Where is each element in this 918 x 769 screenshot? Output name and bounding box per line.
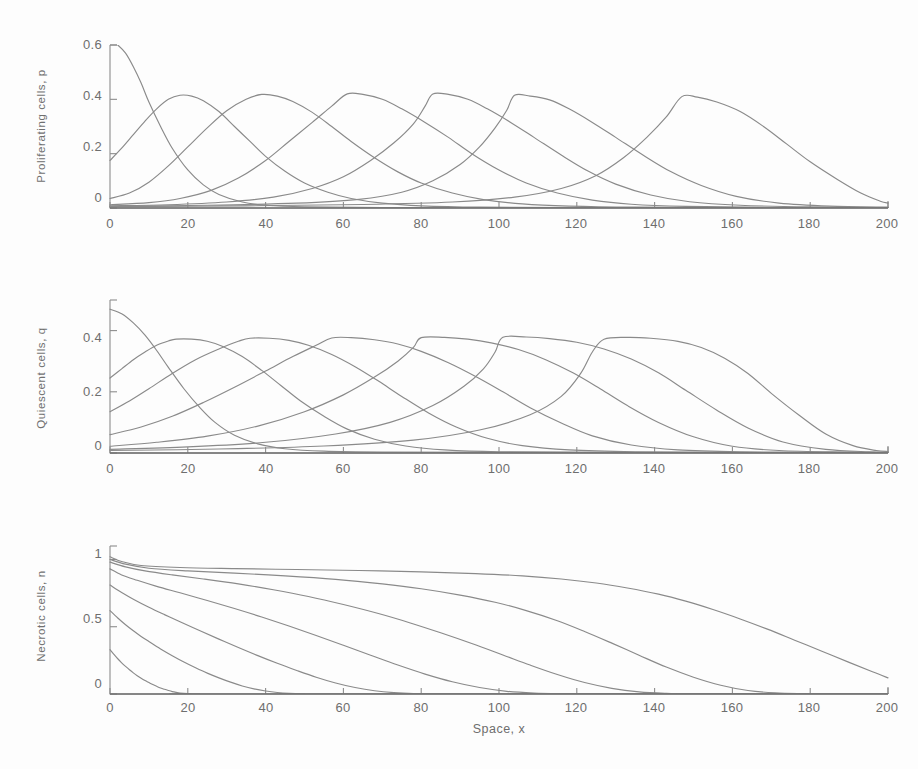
panel-2-ytick-0.2: 0.2	[64, 384, 102, 399]
curve-t2	[110, 95, 888, 208]
panel-1-xtick-100: 100	[482, 216, 516, 231]
curve-t3	[110, 94, 888, 207]
panel-3-y-axis-label: Necrotic cells, n	[35, 541, 47, 691]
panel-3-xtick-20: 20	[171, 700, 205, 715]
curve-t2	[110, 611, 888, 694]
panel-2-xtick-40: 40	[249, 461, 283, 476]
panel-3-xtick-180: 180	[792, 700, 826, 715]
panel-quiescent-cells: Quiescent cells, q 0.4 0.2 0 0 20 40 60 …	[0, 250, 918, 500]
panel-3-ytick-0.5: 0.5	[64, 611, 102, 626]
panel-2-xtick-100: 100	[482, 461, 516, 476]
panel-1-xtick-180: 180	[792, 216, 826, 231]
panel-1-ytick-0.6: 0.6	[64, 37, 102, 52]
curve-t5	[110, 562, 888, 694]
panel-1-xtick-40: 40	[249, 216, 283, 231]
panel-2-xtick-180: 180	[792, 461, 826, 476]
panel-1-plot-area	[110, 45, 888, 208]
panel-3-ytick-0: 0	[64, 676, 102, 691]
curve-t3	[110, 585, 888, 694]
panel-1-ytick-0.4: 0.4	[64, 88, 102, 103]
panel-3-xtick-60: 60	[326, 700, 360, 715]
curve-t3	[110, 338, 888, 453]
panel-1-ytick-0.2: 0.2	[64, 139, 102, 154]
curve-t4	[110, 569, 888, 694]
panel-2-xtick-200: 200	[870, 461, 904, 476]
panel-2-ytick-0: 0	[64, 438, 102, 453]
panel-1-xtick-20: 20	[171, 216, 205, 231]
panel-3-xtick-200: 200	[870, 700, 904, 715]
curve-t1	[110, 309, 888, 453]
panel-2-y-axis-label: Quiescent cells, q	[35, 303, 47, 453]
figure-root: Proliferating cells, p 0.6 0.4 0.2 0 0 2…	[0, 0, 918, 769]
panel-3-ytick-1: 1	[64, 546, 102, 561]
panel-2-xtick-20: 20	[171, 461, 205, 476]
panel-3-xtick-40: 40	[249, 700, 283, 715]
curve-t5	[110, 337, 888, 453]
panel-1-xtick-140: 140	[637, 216, 671, 231]
curve-t6	[110, 559, 888, 694]
panel-1-xtick-160: 160	[715, 216, 749, 231]
curve-t2	[110, 339, 888, 453]
x-axis-label: Space, x	[399, 722, 599, 736]
panel-1-xtick-80: 80	[404, 216, 438, 231]
panel-2-xtick-0: 0	[93, 461, 127, 476]
curve-t7	[110, 95, 888, 207]
panel-2-xtick-140: 140	[637, 461, 671, 476]
panel-2-xtick-80: 80	[404, 461, 438, 476]
panel-2-ytick-0.4: 0.4	[64, 330, 102, 345]
panel-2-xtick-160: 160	[715, 461, 749, 476]
curve-t7	[110, 337, 888, 451]
panel-1-xtick-0: 0	[93, 216, 127, 231]
panel-2-xtick-120: 120	[559, 461, 593, 476]
panel-3-xtick-100: 100	[482, 700, 516, 715]
curve-t1	[110, 650, 888, 694]
panel-1-xtick-200: 200	[870, 216, 904, 231]
panel-3-xtick-80: 80	[404, 700, 438, 715]
panel-3-xtick-0: 0	[93, 700, 127, 715]
panel-necrotic-cells: Necrotic cells, n 1 0.5 0 0 20 40 60 80 …	[0, 498, 918, 769]
panel-3-xtick-120: 120	[559, 700, 593, 715]
curve-t6	[110, 336, 888, 452]
panel-3-plot-area	[110, 546, 888, 694]
panel-1-xtick-60: 60	[326, 216, 360, 231]
panel-3-xtick-160: 160	[715, 700, 749, 715]
panel-1-ytick-0: 0	[64, 190, 102, 205]
panel-1-y-axis-label: Proliferating cells, p	[35, 51, 47, 201]
panel-1-xtick-120: 120	[559, 216, 593, 231]
panel-proliferating-cells: Proliferating cells, p 0.6 0.4 0.2 0 0 2…	[0, 0, 918, 258]
curve-t4	[110, 337, 888, 452]
panel-2-xtick-60: 60	[326, 461, 360, 476]
curve-t1	[110, 40, 888, 208]
panel-3-xtick-140: 140	[637, 700, 671, 715]
curve-t7	[110, 557, 888, 678]
panel-2-plot-area	[110, 300, 888, 453]
